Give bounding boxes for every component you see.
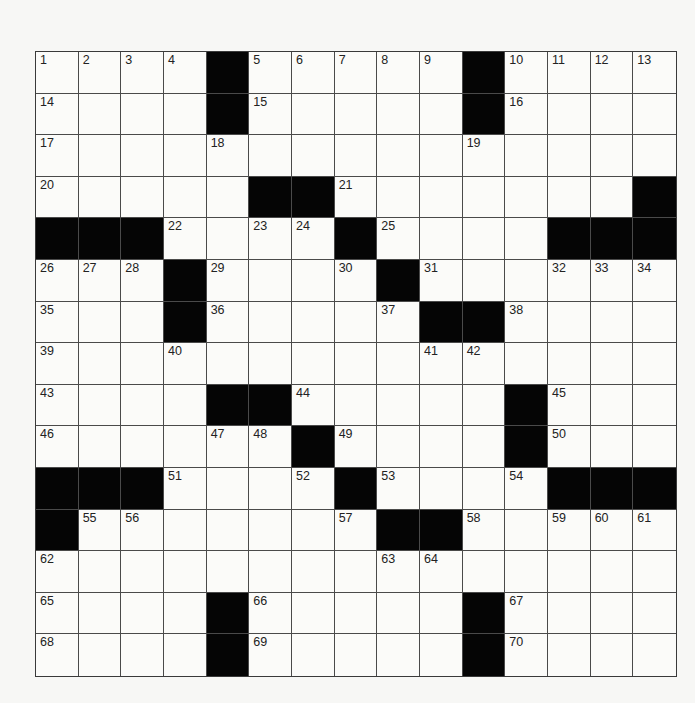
grid-cell[interactable] bbox=[420, 634, 463, 676]
grid-cell[interactable]: 17 bbox=[36, 135, 79, 177]
grid-cell[interactable]: 67 bbox=[505, 593, 548, 635]
grid-cell[interactable] bbox=[121, 385, 164, 427]
grid-cell[interactable]: 61 bbox=[633, 510, 676, 552]
grid-cell[interactable] bbox=[505, 260, 548, 302]
grid-cell[interactable] bbox=[505, 343, 548, 385]
grid-cell[interactable] bbox=[207, 177, 250, 219]
grid-cell[interactable] bbox=[79, 426, 122, 468]
grid-cell[interactable]: 35 bbox=[36, 302, 79, 344]
grid-cell[interactable] bbox=[420, 385, 463, 427]
grid-cell[interactable] bbox=[164, 634, 207, 676]
grid-cell[interactable]: 42 bbox=[463, 343, 506, 385]
grid-cell[interactable]: 16 bbox=[505, 94, 548, 136]
grid-cell[interactable]: 34 bbox=[633, 260, 676, 302]
grid-cell[interactable]: 29 bbox=[207, 260, 250, 302]
grid-cell[interactable] bbox=[591, 135, 634, 177]
grid-cell[interactable]: 18 bbox=[207, 135, 250, 177]
grid-cell[interactable] bbox=[121, 593, 164, 635]
grid-cell[interactable] bbox=[633, 593, 676, 635]
grid-cell[interactable]: 37 bbox=[377, 302, 420, 344]
grid-cell[interactable] bbox=[548, 302, 591, 344]
grid-cell[interactable] bbox=[420, 177, 463, 219]
grid-cell[interactable]: 22 bbox=[164, 218, 207, 260]
grid-cell[interactable] bbox=[121, 94, 164, 136]
grid-cell[interactable]: 59 bbox=[548, 510, 591, 552]
grid-cell[interactable] bbox=[207, 343, 250, 385]
grid-cell[interactable]: 21 bbox=[335, 177, 378, 219]
grid-cell[interactable]: 52 bbox=[292, 468, 335, 510]
grid-cell[interactable] bbox=[633, 302, 676, 344]
grid-cell[interactable] bbox=[79, 302, 122, 344]
grid-cell[interactable] bbox=[292, 94, 335, 136]
grid-cell[interactable]: 4 bbox=[164, 52, 207, 94]
grid-cell[interactable] bbox=[463, 385, 506, 427]
grid-cell[interactable] bbox=[633, 426, 676, 468]
grid-cell[interactable]: 20 bbox=[36, 177, 79, 219]
grid-cell[interactable] bbox=[463, 260, 506, 302]
grid-cell[interactable] bbox=[505, 135, 548, 177]
grid-cell[interactable]: 66 bbox=[249, 593, 292, 635]
grid-cell[interactable] bbox=[377, 177, 420, 219]
grid-cell[interactable]: 3 bbox=[121, 52, 164, 94]
grid-cell[interactable]: 43 bbox=[36, 385, 79, 427]
grid-cell[interactable] bbox=[207, 551, 250, 593]
grid-cell[interactable] bbox=[548, 343, 591, 385]
grid-cell[interactable] bbox=[249, 343, 292, 385]
grid-cell[interactable] bbox=[292, 510, 335, 552]
grid-cell[interactable] bbox=[377, 94, 420, 136]
grid-cell[interactable] bbox=[121, 551, 164, 593]
grid-cell[interactable]: 7 bbox=[335, 52, 378, 94]
grid-cell[interactable]: 32 bbox=[548, 260, 591, 302]
grid-cell[interactable] bbox=[249, 260, 292, 302]
grid-cell[interactable]: 30 bbox=[335, 260, 378, 302]
grid-cell[interactable] bbox=[121, 302, 164, 344]
grid-cell[interactable]: 25 bbox=[377, 218, 420, 260]
grid-cell[interactable]: 57 bbox=[335, 510, 378, 552]
grid-cell[interactable] bbox=[335, 551, 378, 593]
grid-cell[interactable] bbox=[420, 218, 463, 260]
grid-cell[interactable] bbox=[591, 551, 634, 593]
grid-cell[interactable] bbox=[420, 94, 463, 136]
grid-cell[interactable]: 47 bbox=[207, 426, 250, 468]
grid-cell[interactable] bbox=[249, 135, 292, 177]
grid-cell[interactable] bbox=[505, 177, 548, 219]
grid-cell[interactable] bbox=[463, 426, 506, 468]
grid-cell[interactable]: 49 bbox=[335, 426, 378, 468]
grid-cell[interactable]: 60 bbox=[591, 510, 634, 552]
grid-cell[interactable] bbox=[207, 510, 250, 552]
grid-cell[interactable] bbox=[548, 135, 591, 177]
grid-cell[interactable] bbox=[377, 343, 420, 385]
grid-cell[interactable] bbox=[633, 343, 676, 385]
grid-cell[interactable]: 31 bbox=[420, 260, 463, 302]
grid-cell[interactable]: 14 bbox=[36, 94, 79, 136]
grid-cell[interactable]: 1 bbox=[36, 52, 79, 94]
grid-cell[interactable] bbox=[249, 551, 292, 593]
grid-cell[interactable] bbox=[249, 510, 292, 552]
grid-cell[interactable] bbox=[79, 385, 122, 427]
grid-cell[interactable] bbox=[249, 468, 292, 510]
grid-cell[interactable] bbox=[591, 593, 634, 635]
grid-cell[interactable]: 5 bbox=[249, 52, 292, 94]
grid-cell[interactable] bbox=[164, 135, 207, 177]
grid-cell[interactable]: 64 bbox=[420, 551, 463, 593]
grid-cell[interactable]: 41 bbox=[420, 343, 463, 385]
grid-cell[interactable] bbox=[164, 551, 207, 593]
grid-cell[interactable] bbox=[420, 426, 463, 468]
grid-cell[interactable]: 50 bbox=[548, 426, 591, 468]
grid-cell[interactable] bbox=[249, 302, 292, 344]
grid-cell[interactable] bbox=[463, 177, 506, 219]
grid-cell[interactable] bbox=[292, 551, 335, 593]
grid-cell[interactable]: 24 bbox=[292, 218, 335, 260]
grid-cell[interactable] bbox=[335, 302, 378, 344]
grid-cell[interactable] bbox=[164, 593, 207, 635]
grid-cell[interactable] bbox=[548, 551, 591, 593]
grid-cell[interactable]: 69 bbox=[249, 634, 292, 676]
grid-cell[interactable]: 12 bbox=[591, 52, 634, 94]
grid-cell[interactable]: 63 bbox=[377, 551, 420, 593]
grid-cell[interactable] bbox=[79, 135, 122, 177]
grid-cell[interactable] bbox=[505, 551, 548, 593]
grid-cell[interactable] bbox=[377, 135, 420, 177]
grid-cell[interactable] bbox=[548, 94, 591, 136]
grid-cell[interactable] bbox=[633, 634, 676, 676]
grid-cell[interactable]: 11 bbox=[548, 52, 591, 94]
